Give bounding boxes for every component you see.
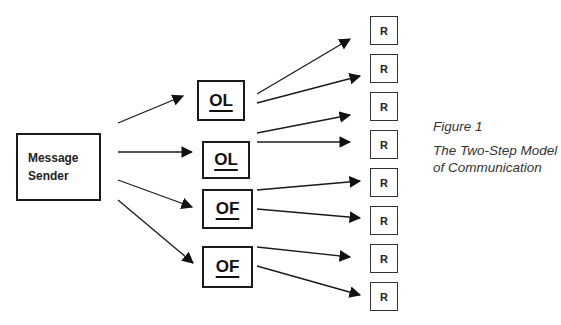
figure-label: Figure 1 [433,118,483,135]
figure-title: The Two-Step Model of Communication [433,142,557,176]
opinion-follower-node-1: OF [202,189,253,229]
sender-label-line1: Message [28,149,79,167]
receiver-node-3: R [370,92,398,121]
figure-title-line1: The Two-Step Model [433,142,557,159]
receiver-node-5: R [370,168,398,197]
opinion-leader-node-1: OL [197,80,245,121]
arrow-sender-to-of-1 [118,180,192,207]
receiver-node-8: R [370,282,398,311]
message-sender-node: Message Sender [16,133,101,201]
opinion-node-label: OF [216,257,240,277]
arrow-ol1-to-r2 [257,76,360,103]
receiver-node-1: R [370,16,398,45]
arrow-of2-to-r7 [257,247,350,257]
opinion-leader-node-2: OL [202,141,250,179]
arrow-ol2-to-r3 [257,115,350,133]
opinion-node-label: OF [216,199,240,219]
arrow-sender-to-ol-1 [118,96,183,123]
arrow-of1-to-r5 [257,181,360,190]
sender-label-line2: Sender [28,167,79,185]
receiver-node-2: R [370,54,398,83]
opinion-node-label: OL [209,91,233,111]
opinion-follower-node-2: OF [202,246,253,288]
arrow-of1-to-r6 [257,209,360,218]
receiver-node-7: R [370,244,398,273]
arrow-ol1-to-r1 [257,39,350,94]
figure-title-line2: of Communication [433,159,557,176]
arrow-sender-to-of-2 [118,200,193,263]
receiver-node-4: R [370,130,398,159]
receiver-node-6: R [370,206,398,235]
opinion-node-label: OL [214,150,238,170]
arrow-of2-to-r8 [257,266,360,295]
